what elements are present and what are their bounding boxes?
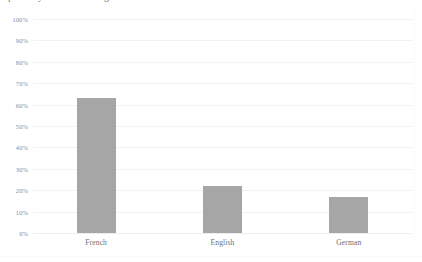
right-edge-line [414,6,415,242]
y-axis-tick-label: 30% [0,165,28,172]
y-axis-tick-label: 70% [0,80,28,87]
plot-area [33,19,412,233]
y-axis-tick-label: 100% [0,16,28,23]
x-axis-label-french: French [33,238,159,247]
chart-title: partially cut off heading line [8,0,128,2]
y-axis-tick-label: 0% [0,230,28,237]
y-axis-tick-label: 50% [0,123,28,130]
gridline [33,83,412,84]
gridline [33,40,412,41]
clipped-title-strip: partially cut off heading line [0,0,422,9]
bar-french [77,98,116,233]
y-axis-tick-label: 20% [0,187,28,194]
x-axis-label-german: German [286,238,412,247]
bar-chart: partially cut off heading line 100%90%80… [0,0,422,262]
y-axis-tick-label: 80% [0,58,28,65]
y-axis-tick-label: 60% [0,101,28,108]
gridline [33,19,412,20]
y-axis-tick-label: 90% [0,37,28,44]
x-axis-label-english: English [159,238,285,247]
bar-german [329,197,368,233]
gridline [33,62,412,63]
bar-english [203,186,242,233]
y-axis-tick-label: 40% [0,144,28,151]
gridline [33,233,412,234]
y-axis-tick-label: 10% [0,208,28,215]
bottom-edge-line [0,256,422,257]
